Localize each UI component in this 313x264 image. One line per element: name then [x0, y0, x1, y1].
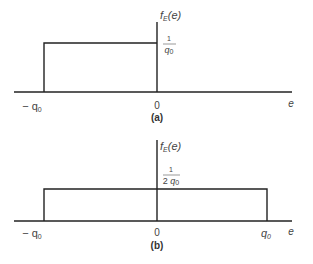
tick-q0-b: q0: [261, 227, 271, 240]
tick-neg-q0-b: − q0: [22, 227, 42, 240]
svg-text:2 q0: 2 q0: [163, 176, 180, 186]
y-axis-label-b: fE(e): [160, 140, 182, 153]
svg-text:1: 1: [169, 166, 173, 173]
tick-zero-a: 0: [154, 100, 160, 111]
svg-text:q0: q0: [165, 45, 174, 55]
x-axis-label-b: e: [288, 226, 294, 237]
y-axis-label-a: fE(e): [160, 9, 182, 22]
x-axis-label-a: e: [288, 98, 294, 109]
pdf-rectangle-a: [44, 43, 157, 92]
caption-b: (b): [151, 240, 164, 251]
caption-a: (a): [151, 112, 163, 123]
figure-canvas: fE(e) 1 q0 − q0 0 e (a) fE(e) 1 2 q0 − q…: [0, 0, 313, 264]
height-label-a: 1 q0: [163, 35, 176, 55]
tick-zero-b: 0: [154, 227, 160, 238]
svg-text:1: 1: [167, 35, 171, 42]
panel-b: fE(e) 1 2 q0 − q0 0 q0 e (b): [14, 140, 294, 251]
panel-a: fE(e) 1 q0 − q0 0 e (a): [14, 9, 294, 123]
height-label-b: 1 2 q0: [163, 166, 180, 186]
tick-neg-q0-a: − q0: [22, 100, 42, 113]
pdf-rectangle-b: [44, 189, 267, 221]
